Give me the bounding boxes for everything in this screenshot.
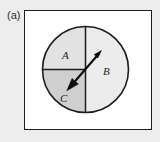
figure-panel: (a) A B C (0, 0, 160, 142)
sector-label-a: A (62, 50, 69, 61)
sector-label-c: C (60, 93, 67, 104)
sector-label-b: B (103, 66, 110, 77)
figure-graphic (0, 0, 160, 142)
